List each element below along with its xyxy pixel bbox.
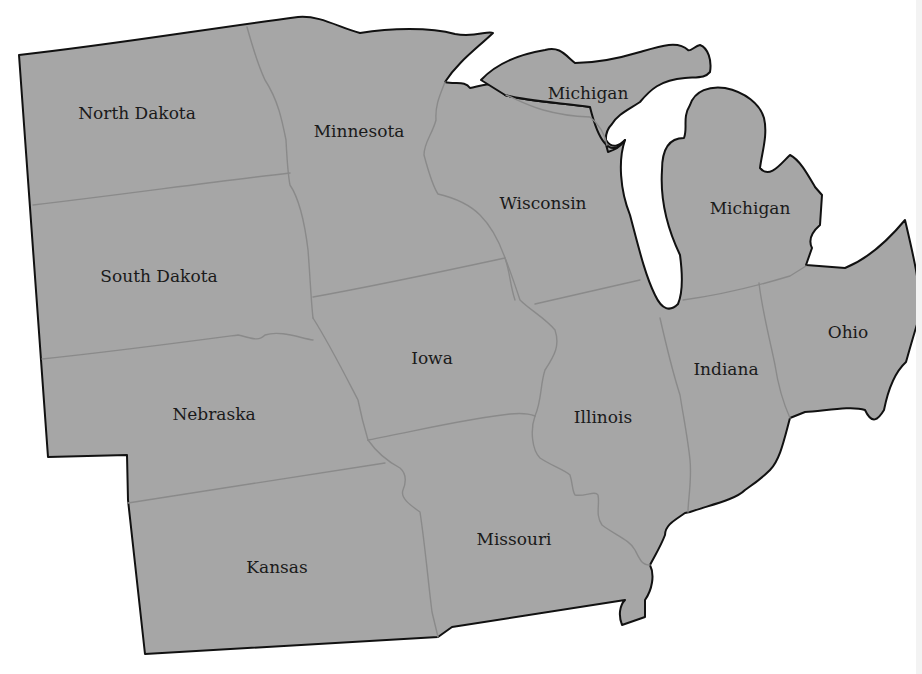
midwest-map: North Dakota Minnesota Michigan Wisconsi…: [0, 0, 922, 674]
state-label-ohio: Ohio: [828, 322, 869, 342]
page-edge-strip: [916, 0, 922, 674]
state-label-iowa: Iowa: [411, 348, 453, 368]
state-label-missouri: Missouri: [476, 529, 552, 549]
state-label-indiana: Indiana: [693, 359, 758, 379]
state-label-north-dakota: North Dakota: [78, 103, 196, 123]
state-label-wisconsin: Wisconsin: [499, 193, 586, 213]
state-label-south-dakota: South Dakota: [100, 266, 217, 286]
state-label-minnesota: Minnesota: [314, 121, 405, 141]
state-label-kansas: Kansas: [246, 557, 307, 577]
state-label-illinois: Illinois: [574, 407, 632, 427]
state-label-nebraska: Nebraska: [172, 404, 255, 424]
state-label-michigan-lower: Michigan: [710, 198, 791, 218]
state-label-michigan-upper: Michigan: [548, 83, 629, 103]
